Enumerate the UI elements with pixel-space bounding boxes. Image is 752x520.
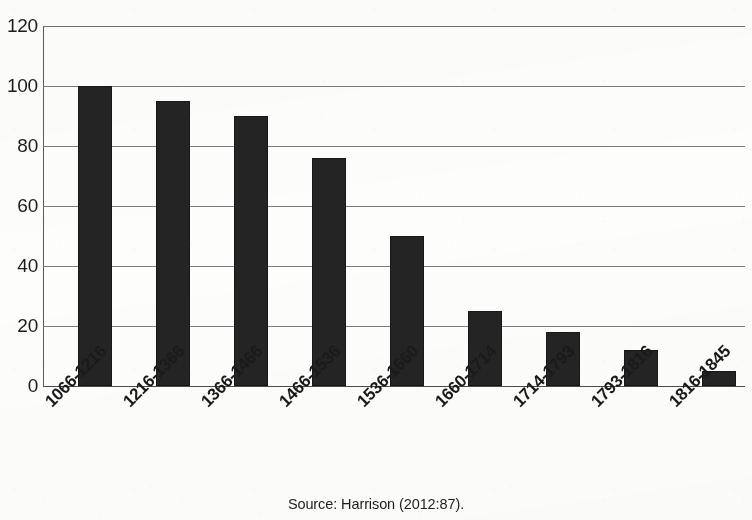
gridline-60 [43,206,745,207]
plot-area [43,26,745,386]
source-caption: Source: Harrison (2012:87). [0,496,752,512]
y-tick-label-120: 120 [2,16,38,35]
gridline-120 [43,26,745,27]
y-tick-label-80: 80 [2,136,38,155]
gridline-100 [43,86,745,87]
y-axis-tick-labels: 020406080100120 [0,0,38,520]
y-tick-label-60: 60 [2,196,38,215]
y-tick-label-0: 0 [2,376,38,395]
bar-1066-1216[interactable] [78,86,112,386]
y-tick-label-100: 100 [2,76,38,95]
gridline-80 [43,146,745,147]
y-tick-label-40: 40 [2,256,38,275]
figure-container: 020406080100120 1066-12161216-13661366-1… [0,0,752,520]
y-tick-label-20: 20 [2,316,38,335]
